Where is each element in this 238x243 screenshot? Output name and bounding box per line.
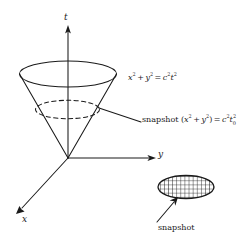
- snapshot-eq-t-exp: 2: [233, 113, 236, 119]
- snapshot-eq-plus: +: [192, 115, 202, 124]
- t-axis-label: t: [64, 13, 68, 22]
- cone-equation-label: x2+y2=c2t2: [128, 74, 177, 82]
- x-axis-label: x: [22, 215, 27, 224]
- snapshot-caption-arrow: [157, 197, 178, 222]
- y-axis-label: y: [158, 150, 163, 159]
- snapshot-eq-t-sub: 0: [233, 120, 236, 126]
- snapshot-equation-label: snapshot(x2+y2)=c2t02: [142, 116, 236, 124]
- cone-eq-t-exp: 2: [174, 71, 177, 77]
- cone-eq-plus: +: [136, 73, 146, 82]
- light-cone-figure: t y x x2+y2=c2t2 snapshot(x2+y2)=c2t02 s…: [0, 0, 238, 243]
- snapshot-equation-leader-line: [99, 108, 141, 122]
- snapshot-disc-caption: snapshot: [158, 224, 194, 232]
- snapshot-eq-word: snapshot: [142, 115, 178, 124]
- t-axis: [65, 25, 71, 158]
- x-axis: [16, 158, 68, 214]
- y-axis: [68, 155, 156, 161]
- snapshot-eq-equals: =: [212, 115, 222, 124]
- cone-eq-equals: =: [153, 73, 163, 82]
- snapshot-disc: [156, 174, 216, 201]
